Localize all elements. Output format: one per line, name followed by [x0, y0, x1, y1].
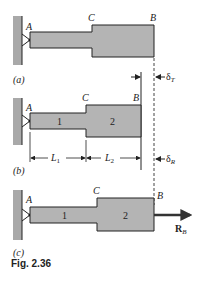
delta-t-label: δT	[166, 71, 176, 84]
point-a-label: A	[25, 21, 33, 32]
panel-a: A C B (a) δT	[13, 12, 176, 86]
segment-1-label: 1	[57, 116, 62, 127]
point-c-label: C	[82, 92, 89, 103]
figure-canvas: A C B (a) δT A C B 1 2 L1 L2 δR (b)	[0, 0, 198, 286]
panel-b: A C B 1 2 L1 L2 δR (b)	[13, 92, 176, 177]
figure-caption: Fig. 2.36	[11, 258, 51, 269]
wall-b	[13, 98, 22, 145]
point-a-label: A	[25, 194, 33, 205]
wall-a	[13, 16, 22, 65]
stepped-bar-b	[30, 105, 141, 137]
stepped-bar-a	[30, 25, 154, 57]
dimension-l2-label: L2	[104, 152, 115, 165]
panel-b-label: (b)	[13, 165, 25, 177]
delta-r-label: δR	[166, 153, 176, 166]
dimension-l1-label: L1	[50, 152, 61, 165]
point-a-label: A	[25, 102, 33, 113]
point-b-label: B	[150, 12, 156, 23]
segment-2-label: 2	[123, 210, 128, 221]
stepped-bar-c	[30, 198, 154, 231]
point-b-label: B	[133, 92, 139, 103]
force-rb-label: RB	[175, 223, 187, 236]
point-b-label: B	[157, 190, 163, 201]
segment-2-label: 2	[110, 116, 115, 127]
panel-a-label: (a)	[13, 74, 25, 86]
panel-c: A C B 1 2 RB (c)	[13, 185, 190, 259]
wall-c	[13, 190, 22, 240]
segment-1-label: 1	[62, 210, 67, 221]
point-c-label: C	[88, 12, 95, 23]
point-c-label: C	[93, 185, 100, 196]
